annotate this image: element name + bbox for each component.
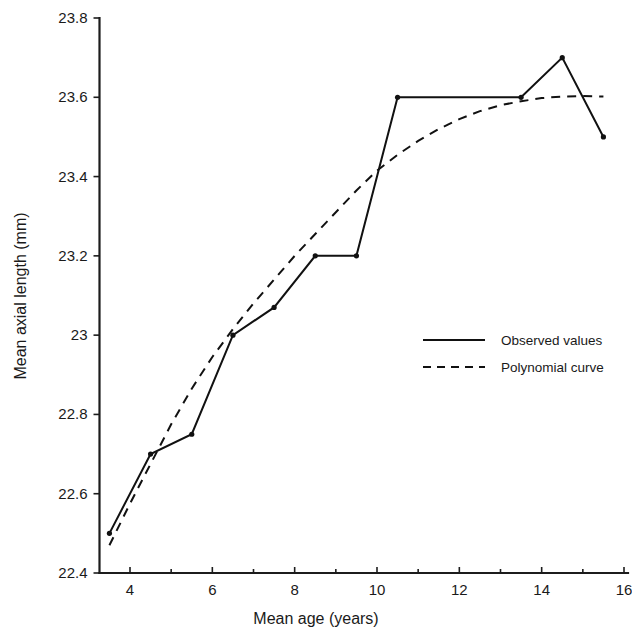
data-point-marker — [189, 432, 194, 437]
x-axis-ticks: 46810121416 — [126, 567, 632, 598]
data-point-marker — [395, 95, 400, 100]
y-tick-label: 22.8 — [58, 405, 87, 422]
series-observed-values — [109, 58, 603, 534]
x-tick-label: 16 — [616, 581, 632, 598]
y-tick-label: 23.8 — [58, 9, 87, 26]
series-group — [107, 55, 606, 545]
chart-legend: Observed valuesPolynomial curve — [423, 333, 604, 375]
y-tick-label: 23 — [71, 326, 88, 343]
data-point-marker — [107, 531, 112, 536]
data-point-marker — [271, 305, 276, 310]
legend-label: Observed values — [501, 333, 603, 348]
x-tick-label: 12 — [451, 581, 468, 598]
y-axis-title: Mean axial length (mm) — [12, 212, 29, 379]
axes-group — [100, 18, 629, 573]
data-point-marker — [148, 451, 153, 456]
x-tick-label: 4 — [126, 581, 134, 598]
data-point-marker — [354, 253, 359, 258]
line-chart-svg: 22.422.622.82323.223.423.623.8 468101214… — [0, 0, 632, 636]
chart-figure: 22.422.622.82323.223.423.623.8 468101214… — [0, 0, 632, 636]
series-polynomial-curve — [109, 96, 603, 545]
observed-data-markers — [107, 55, 606, 536]
y-tick-label: 22.6 — [58, 485, 87, 502]
x-tick-label: 8 — [290, 581, 298, 598]
y-tick-label: 23.4 — [58, 168, 87, 185]
y-tick-label: 23.6 — [58, 88, 87, 105]
data-point-marker — [560, 55, 565, 60]
x-tick-label: 14 — [533, 581, 550, 598]
data-point-marker — [230, 333, 235, 338]
data-point-marker — [313, 253, 318, 258]
data-point-marker — [518, 95, 523, 100]
y-axis-ticks: 22.422.622.82323.223.423.623.8 — [58, 9, 99, 581]
legend-label: Polynomial curve — [501, 360, 604, 375]
y-tick-label: 23.2 — [58, 247, 87, 264]
x-tick-label: 10 — [369, 581, 386, 598]
data-point-marker — [601, 134, 606, 139]
y-tick-label: 22.4 — [58, 564, 87, 581]
x-axis-title: Mean age (years) — [253, 610, 378, 627]
x-tick-label: 6 — [208, 581, 216, 598]
